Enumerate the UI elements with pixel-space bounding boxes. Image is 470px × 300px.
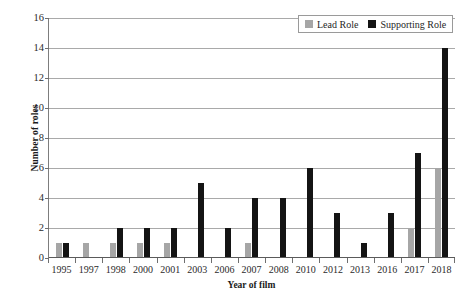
bar: [83, 243, 89, 258]
x-axis-tick-label: 2013: [347, 264, 374, 275]
bar: [56, 243, 62, 258]
bar-group: [238, 18, 265, 258]
x-axis-tick-mark: [401, 258, 402, 263]
bar-group: [76, 18, 103, 258]
bar: [388, 213, 394, 258]
bar: [171, 228, 177, 258]
y-axis-tick-label: 8: [16, 133, 44, 144]
x-axis-tick-mark: [129, 258, 130, 263]
bar-group: [49, 18, 76, 258]
bar: [117, 228, 123, 258]
bar: [63, 243, 69, 258]
supporting-role-swatch: [368, 20, 376, 28]
x-axis-tick-mark: [374, 258, 375, 263]
legend-label: Supporting Role: [380, 19, 446, 30]
x-axis-tick-mark: [265, 258, 266, 263]
x-axis-tick-label: 2001: [157, 264, 184, 275]
bar: [164, 243, 170, 258]
x-axis-tick-label: 2016: [374, 264, 401, 275]
x-axis-tick-label: 1995: [48, 264, 75, 275]
x-axis-tick-mark: [75, 258, 76, 263]
bar-group: [184, 18, 211, 258]
legend-label: Lead Role: [317, 19, 358, 30]
bar: [137, 243, 143, 258]
x-axis-tick-labels: 1995199719982000200120032006200720082010…: [48, 264, 455, 275]
bar: [198, 183, 204, 258]
bar-group: [293, 18, 320, 258]
bar-group: [103, 18, 130, 258]
y-axis-tick-label: 6: [16, 163, 44, 174]
bar: [361, 243, 367, 258]
x-axis-tick-label: 1997: [75, 264, 102, 275]
y-axis-tick-label: 10: [16, 103, 44, 114]
y-axis-tick-labels: 1614121086420: [14, 0, 44, 300]
bar-group: [211, 18, 238, 258]
y-axis-tick-label: 0: [16, 253, 44, 264]
bar: [110, 243, 116, 258]
x-axis-tick-label: 2000: [129, 264, 156, 275]
x-axis-tick-label: 2012: [319, 264, 346, 275]
bar-group: [347, 18, 374, 258]
legend-entry: Lead Role: [305, 19, 358, 30]
x-axis-tick-label: 2003: [184, 264, 211, 275]
bar-group: [266, 18, 293, 258]
bar-group: [428, 18, 455, 258]
x-axis-tick-mark: [238, 258, 239, 263]
y-axis-tick-label: 12: [16, 73, 44, 84]
bar-group: [157, 18, 184, 258]
bar: [225, 228, 231, 258]
x-axis-tick-label: 2010: [292, 264, 319, 275]
bar: [408, 228, 414, 258]
bar: [252, 198, 258, 258]
x-axis-tick-mark: [319, 258, 320, 263]
bar-chart: Number of roles 1614121086420 1995199719…: [0, 0, 470, 300]
x-axis-tick-label: 1998: [102, 264, 129, 275]
bar: [144, 228, 150, 258]
bar: [280, 198, 286, 258]
bar: [334, 213, 340, 258]
x-axis-tick-label: 2018: [428, 264, 455, 275]
y-axis-tick-label: 14: [16, 43, 44, 54]
bar-group: [130, 18, 157, 258]
x-axis-tick-label: 2007: [238, 264, 265, 275]
x-axis-tick-mark: [157, 258, 158, 263]
y-axis-tick-label: 16: [16, 13, 44, 24]
bar-group: [401, 18, 428, 258]
x-axis-tick-mark: [211, 258, 212, 263]
chart-legend: Lead RoleSupporting Role: [298, 15, 453, 33]
x-axis-tick-label: 2017: [401, 264, 428, 275]
x-axis-tick-mark: [428, 258, 429, 263]
y-axis-tick-label: 2: [16, 223, 44, 234]
x-axis-title: Year of film: [48, 280, 455, 290]
bar: [415, 153, 421, 258]
bar-group: [320, 18, 347, 258]
x-axis-tick-mark: [347, 258, 348, 263]
x-axis-tick-label: 2006: [211, 264, 238, 275]
x-axis-tick-mark: [184, 258, 185, 263]
bar: [442, 48, 448, 258]
bar: [307, 168, 313, 258]
bars-layer: [49, 18, 455, 258]
x-axis-tick-mark: [102, 258, 103, 263]
bar-group: [374, 18, 401, 258]
plot-area: [48, 18, 455, 258]
legend-entry: Supporting Role: [368, 19, 446, 30]
x-axis-tick-mark: [292, 258, 293, 263]
x-axis-tick-mark-end: [454, 258, 455, 263]
y-axis-tick-label: 4: [16, 193, 44, 204]
lead-role-swatch: [305, 20, 313, 28]
x-axis-tick-mark: [48, 258, 49, 263]
bar: [245, 243, 251, 258]
x-axis-tick-label: 2008: [265, 264, 292, 275]
bar: [435, 168, 441, 258]
